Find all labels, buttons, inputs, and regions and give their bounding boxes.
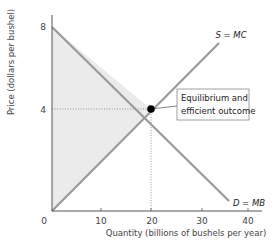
origin-label: 0 [41,216,47,226]
supply-curve-label: S = MC [215,30,246,40]
x-tick-label-20: 20 [146,216,158,226]
x-axis-title: Quantity (billions of bushels per year) [106,228,267,238]
y-axis-title: Price (dollars per bushel) [6,9,16,115]
efficiency-chart: 8 4 0 10 20 30 40 Quantity (billions of … [0,0,274,243]
y-tick-label-8: 8 [40,22,46,32]
y-tick-label-4: 4 [40,105,46,115]
annotation-line-2: efficient outcome [181,106,255,116]
x-tick-label-30: 30 [196,216,208,226]
demand-curve-label: D = MB [233,198,265,208]
annotation-line-1: Equilibrium and [181,93,248,103]
surplus-shaded-region [52,27,151,211]
x-tick-label-10: 10 [95,216,107,226]
x-tick-label-40: 40 [242,216,254,226]
equilibrium-point [147,105,155,113]
